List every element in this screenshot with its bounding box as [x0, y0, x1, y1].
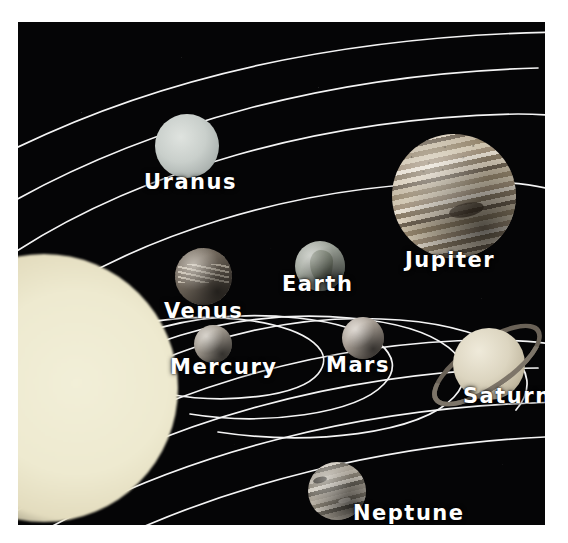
planet-jupiter: [392, 134, 516, 258]
planet-label-saturn: Saturn: [463, 386, 545, 407]
poster-image: Uranus Venus Mercury Earth Mars Jupiter …: [18, 22, 545, 525]
planet-venus: [175, 248, 232, 305]
venus-shading: [175, 248, 232, 305]
planet-label-mercury: Mercury: [170, 357, 277, 378]
orbit-path-neptune: [18, 32, 545, 150]
planet-label-neptune: Neptune: [353, 503, 465, 524]
planet-label-venus: Venus: [164, 301, 243, 322]
planet-uranus: [155, 114, 219, 178]
planet-label-mars: Mars: [326, 355, 390, 376]
solar-system-poster: Uranus Venus Mercury Earth Mars Jupiter …: [0, 0, 568, 543]
planet-label-uranus: Uranus: [144, 172, 237, 193]
planet-label-earth: Earth: [282, 274, 353, 295]
planet-label-jupiter: Jupiter: [405, 250, 495, 271]
jupiter-shading: [392, 134, 516, 258]
